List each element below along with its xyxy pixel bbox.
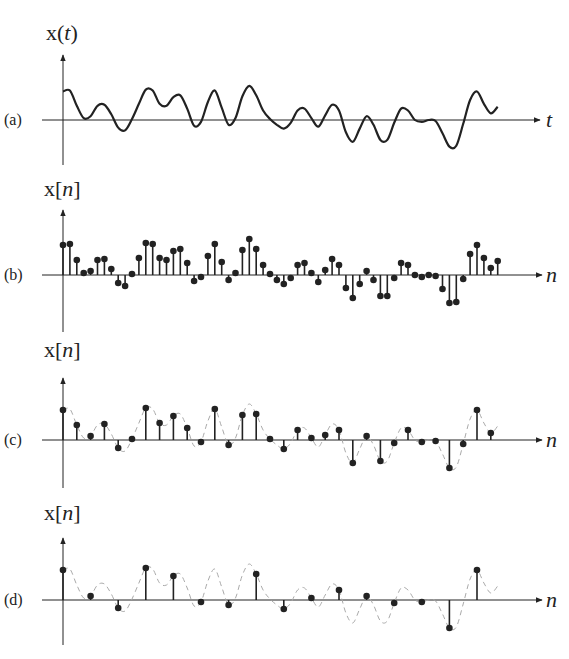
stem-dot	[149, 241, 156, 248]
stem-dot	[474, 242, 481, 249]
stem-dot	[488, 265, 495, 272]
stem-dot	[384, 293, 391, 300]
stem-dot	[281, 606, 288, 613]
stem-dot	[101, 256, 108, 263]
stem-dot	[363, 433, 370, 440]
stem-dot	[212, 406, 219, 413]
stem-dot	[115, 445, 122, 452]
stem-dot	[60, 407, 67, 414]
stem-dot	[494, 258, 501, 265]
panel-label-b: (b)	[4, 266, 23, 284]
stem-dot	[460, 276, 467, 283]
stem-dot	[474, 567, 481, 574]
stem-dot	[391, 440, 398, 447]
stem-samples-d	[60, 565, 481, 632]
stem-dot	[350, 295, 357, 302]
stem-dot	[460, 441, 467, 448]
stem-dot	[267, 271, 274, 278]
stem-dot	[419, 599, 426, 606]
stem-dot	[308, 435, 315, 442]
stem-dot	[287, 275, 294, 282]
stem-dot	[60, 242, 67, 249]
axis-var-d: n	[546, 587, 557, 612]
stem-dot	[274, 277, 281, 284]
stem-dot	[350, 460, 357, 467]
stem-dot	[336, 427, 343, 434]
stem-dot	[87, 268, 94, 275]
panel-d: x[n] (d) n	[4, 500, 557, 645]
dashed-envelope-c	[63, 404, 498, 470]
stem-samples-b	[60, 236, 501, 307]
stem-dot	[225, 602, 232, 609]
stem-dot	[170, 248, 177, 255]
stem-dot	[308, 270, 315, 277]
stem-dot	[488, 430, 495, 437]
stem-dot	[205, 253, 212, 260]
stem-dot	[225, 277, 232, 284]
stem-dot	[246, 236, 253, 243]
stem-dot	[87, 433, 94, 440]
stem-dot	[143, 405, 150, 412]
stem-dot	[301, 260, 308, 267]
stem-dot	[239, 247, 246, 254]
stem-dot	[343, 285, 350, 292]
stem-dot	[60, 567, 67, 574]
stem-dot	[212, 241, 219, 248]
stem-dot	[80, 270, 87, 277]
stem-dot	[281, 281, 288, 288]
continuous-signal	[63, 86, 498, 149]
stem-dot	[94, 257, 101, 264]
stem-dot	[177, 246, 184, 253]
stem-dot	[87, 593, 94, 600]
stem-dot	[218, 259, 225, 266]
stem-dot	[74, 257, 81, 264]
stem-dot	[391, 600, 398, 607]
stem-dot	[481, 255, 488, 262]
stem-dot	[253, 411, 260, 418]
stem-dot	[225, 442, 232, 449]
stem-dot	[363, 268, 370, 275]
stem-dot	[412, 272, 419, 279]
stem-dot	[467, 251, 474, 258]
stem-dot	[322, 267, 329, 274]
stem-dot	[253, 571, 260, 578]
stem-dot	[156, 255, 163, 262]
panel-label-a: (a)	[4, 111, 22, 129]
stem-dot	[143, 565, 150, 572]
stem-dot	[239, 412, 246, 419]
stem-dot	[405, 427, 412, 434]
stem-dot	[405, 262, 412, 269]
stem-dot	[184, 425, 191, 432]
ylabel-d: x[n]	[44, 500, 81, 525]
panel-a: x(t) (a) t	[4, 20, 553, 165]
stem-dot	[67, 241, 74, 248]
stem-dot	[453, 299, 460, 306]
stem-dot	[122, 283, 129, 290]
panel-label-c: (c)	[4, 431, 22, 449]
panel-c: x[n] (c) n	[4, 337, 557, 488]
stem-dot	[115, 280, 122, 287]
axis-var-a: t	[546, 107, 553, 132]
stem-samples-c	[60, 405, 494, 472]
stem-dot	[377, 458, 384, 465]
stem-dot	[419, 439, 426, 446]
stem-dot	[432, 273, 439, 280]
panel-label-d: (d)	[4, 591, 23, 609]
stem-dot	[446, 625, 453, 632]
stem-dot	[74, 422, 81, 429]
stem-dot	[191, 278, 198, 285]
stem-dot	[419, 274, 426, 281]
axis-var-b: n	[546, 262, 557, 287]
ylabel-b: x[n]	[44, 176, 81, 201]
stem-dot	[363, 593, 370, 600]
stem-dot	[184, 260, 191, 267]
stem-dot	[336, 587, 343, 594]
stem-dot	[253, 246, 260, 253]
stem-dot	[136, 255, 143, 262]
stem-dot	[377, 293, 384, 300]
stem-dot	[281, 446, 288, 453]
panel-b: x[n] (b) n	[4, 176, 557, 332]
stem-dot	[115, 605, 122, 612]
stem-dot	[267, 436, 274, 443]
stem-dot	[101, 421, 108, 428]
